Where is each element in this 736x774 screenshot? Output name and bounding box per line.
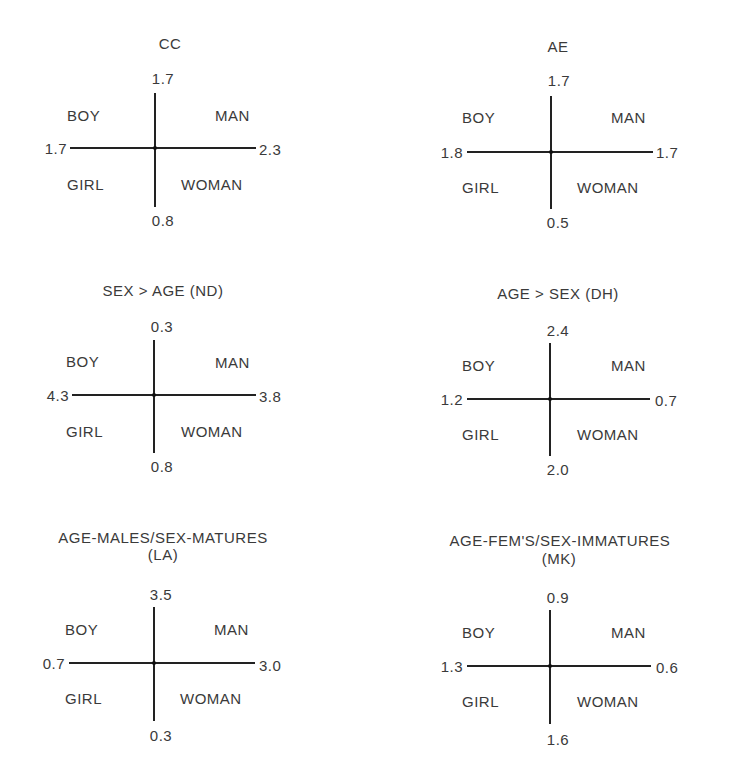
diagram-title: CC — [159, 36, 182, 51]
quadrant-man: MAN — [611, 110, 646, 125]
quadrant-woman: WOMAN — [577, 180, 639, 195]
diagram-title: AGE > SEX (DH) — [497, 286, 619, 301]
axis-origin — [152, 393, 156, 397]
left-value: 0.7 — [43, 656, 65, 671]
horizontal-axis — [467, 665, 651, 667]
right-value: 0.7 — [655, 393, 677, 408]
top-value: 2.4 — [547, 323, 569, 338]
diagram-age-fems-sex-immatures-mk: AGE-FEM'S/SEX-IMMATURES (MK) 0.9 1.3 0.6… — [368, 510, 736, 774]
quadrant-girl: GIRL — [66, 424, 103, 439]
diagram-ae: AE 1.7 1.8 1.7 BOY MAN GIRL WOMAN 0.5 — [368, 0, 736, 250]
horizontal-axis — [70, 147, 256, 149]
bottom-value: 1.6 — [547, 732, 569, 747]
diagram-cc: CC 1.7 1.7 2.3 BOY MAN GIRL WOMAN 0.8 — [0, 0, 368, 250]
quadrant-boy: BOY — [65, 622, 98, 637]
quadrant-woman: WOMAN — [577, 427, 639, 442]
right-value: 0.6 — [656, 660, 678, 675]
bottom-value: 0.3 — [150, 728, 172, 743]
quadrant-man: MAN — [215, 355, 250, 370]
diagram-title: AGE-FEM'S/SEX-IMMATURES — [450, 533, 671, 548]
diagram-age-males-sex-matures-la: AGE-MALES/SEX-MATURES (LA) 3.5 0.7 3.0 B… — [0, 510, 368, 774]
quadrant-man: MAN — [611, 358, 646, 373]
quadrant-boy: BOY — [66, 354, 99, 369]
quadrant-girl: GIRL — [462, 427, 499, 442]
diagram-title: SEX > AGE (ND) — [103, 283, 224, 298]
axis-origin — [548, 397, 552, 401]
axis-origin — [549, 150, 553, 154]
quadrant-girl: GIRL — [67, 177, 104, 192]
horizontal-axis — [72, 394, 256, 396]
quadrant-woman: WOMAN — [577, 694, 639, 709]
top-value: 3.5 — [150, 587, 172, 602]
axis-origin — [153, 146, 157, 150]
axis-origin — [152, 661, 156, 665]
quadrant-girl: GIRL — [462, 694, 499, 709]
quadrant-boy: BOY — [462, 110, 495, 125]
left-value: 1.8 — [441, 145, 463, 160]
diagram-title: AE — [547, 39, 568, 54]
top-value: 0.9 — [547, 590, 569, 605]
quadrant-boy: BOY — [462, 358, 495, 373]
quadrant-boy: BOY — [462, 625, 495, 640]
horizontal-axis — [467, 398, 650, 400]
quadrant-man: MAN — [611, 625, 646, 640]
quadrant-man: MAN — [215, 108, 250, 123]
right-value: 3.8 — [259, 389, 281, 404]
vertical-axis — [154, 93, 156, 207]
quadrant-woman: WOMAN — [181, 177, 243, 192]
bottom-value: 0.8 — [152, 213, 174, 228]
quadrant-woman: WOMAN — [181, 424, 243, 439]
left-value: 1.7 — [45, 141, 67, 156]
right-value: 2.3 — [259, 142, 281, 157]
axis-origin — [548, 664, 552, 668]
left-value: 1.2 — [441, 392, 463, 407]
right-value: 3.0 — [259, 658, 281, 673]
top-value: 1.7 — [152, 71, 174, 86]
top-value: 1.7 — [548, 73, 570, 88]
quadrant-girl: GIRL — [65, 691, 102, 706]
left-value: 1.3 — [441, 659, 463, 674]
diagram-subtitle: (MK) — [542, 551, 577, 566]
diagram-subtitle: (LA) — [148, 547, 178, 562]
left-value: 4.3 — [47, 388, 69, 403]
horizontal-axis — [69, 662, 255, 664]
quadrant-man: MAN — [214, 622, 249, 637]
diagram-title: AGE-MALES/SEX-MATURES — [58, 530, 267, 545]
quadrant-woman: WOMAN — [180, 691, 242, 706]
right-value: 1.7 — [656, 145, 678, 160]
quadrant-boy: BOY — [67, 108, 100, 123]
diagram-sex-gt-age-nd: SEX > AGE (ND) 0.3 4.3 3.8 BOY MAN GIRL … — [0, 260, 368, 510]
diagram-age-gt-sex-dh: AGE > SEX (DH) 2.4 1.2 0.7 BOY MAN GIRL … — [368, 260, 736, 510]
top-value: 0.3 — [151, 319, 173, 334]
quadrant-girl: GIRL — [462, 180, 499, 195]
horizontal-axis — [467, 151, 653, 153]
bottom-value: 0.8 — [151, 459, 173, 474]
bottom-value: 0.5 — [547, 215, 569, 230]
bottom-value: 2.0 — [547, 462, 569, 477]
